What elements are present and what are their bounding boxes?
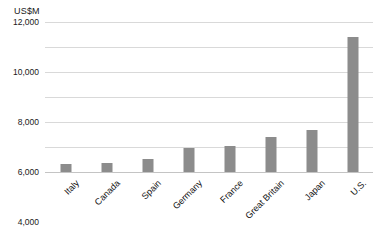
y-axis-tick-label: 8,000: [18, 117, 39, 127]
bar: [183, 148, 194, 172]
bar: [224, 146, 235, 172]
plot-area: 02,0004,0006,0008,00010,00012,000: [45, 22, 373, 172]
x-axis-tick-label: Japan: [302, 178, 326, 202]
x-axis-tick-label: Canada: [92, 178, 121, 207]
y-axis-unit-label: US$M: [14, 6, 40, 16]
bar: [142, 159, 153, 172]
y-axis-tick-label: 4,000: [18, 217, 39, 227]
bar: [347, 37, 358, 172]
x-axis-labels: ItalyCanadaSpainGermanyFranceGreat Brita…: [45, 174, 373, 240]
y-axis-tick-label: 6,000: [18, 167, 39, 177]
bars-layer: [45, 22, 373, 172]
axis-baseline: 0: [45, 172, 373, 173]
bar: [265, 137, 276, 172]
x-axis-tick-label: U.S.: [348, 178, 367, 197]
y-axis-tick-label: 12,000: [13, 17, 39, 27]
x-axis-tick-label: Germany: [170, 178, 203, 211]
bar: [60, 164, 71, 172]
x-axis-tick-label: Italy: [62, 178, 81, 197]
bar: [101, 163, 112, 173]
x-axis-tick-label: France: [218, 178, 245, 205]
bar: [306, 130, 317, 173]
y-axis-tick-label: 10,000: [13, 67, 39, 77]
x-axis-tick-label: Spain: [139, 178, 162, 201]
x-axis-tick-label: Great Britain: [243, 178, 286, 221]
bar-chart: US$M 02,0004,0006,0008,00010,00012,000 I…: [0, 0, 388, 243]
